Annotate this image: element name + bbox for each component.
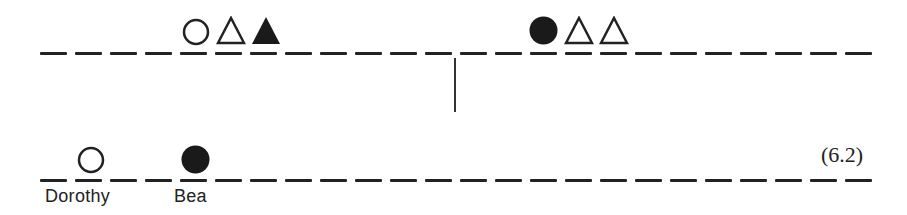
dash-segment: [110, 52, 137, 55]
dash-segment: [845, 179, 872, 182]
dash-segment: [285, 179, 312, 182]
open-circle-icon: [77, 146, 105, 174]
dash-segment: [40, 52, 67, 55]
dash-segment: [75, 52, 102, 55]
dash-segment: [215, 179, 242, 182]
open-circle-icon: [182, 18, 210, 46]
dash-segment: [250, 52, 277, 55]
open-triangle-icon: [564, 16, 594, 45]
bottom-dashed-line: [0, 179, 907, 183]
dash-segment: [75, 179, 102, 182]
dash-segment: [670, 179, 697, 182]
dash-segment: [565, 179, 592, 182]
dash-segment: [145, 52, 172, 55]
dash-segment: [530, 179, 557, 182]
filled-circle-icon: [181, 145, 210, 174]
open-triangle-icon: [216, 16, 246, 45]
dash-segment: [250, 179, 277, 182]
dash-segment: [565, 52, 592, 55]
dash-segment: [145, 179, 172, 182]
open-triangle-icon: [599, 16, 629, 45]
dash-segment: [110, 179, 137, 182]
dash-segment: [600, 52, 627, 55]
dash-segment: [705, 52, 732, 55]
equation-number: (6.2): [821, 142, 863, 168]
filled-circle-icon: [529, 16, 558, 45]
dash-segment: [775, 179, 802, 182]
dash-segment: [670, 52, 697, 55]
dash-segment: [845, 52, 872, 55]
dash-segment: [355, 52, 382, 55]
dash-segment: [705, 179, 732, 182]
dash-segment: [40, 179, 67, 182]
dash-segment: [390, 179, 417, 182]
top-dashed-line: [0, 52, 907, 56]
label-dorothy: Dorothy: [45, 186, 110, 207]
dash-segment: [355, 179, 382, 182]
dash-segment: [775, 52, 802, 55]
dash-segment: [390, 52, 417, 55]
dash-segment: [320, 52, 347, 55]
dash-segment: [740, 52, 767, 55]
dash-segment: [180, 52, 207, 55]
label-bea: Bea: [174, 186, 207, 207]
dash-segment: [460, 52, 487, 55]
dash-segment: [635, 52, 662, 55]
dash-segment: [635, 179, 662, 182]
dash-segment: [810, 179, 837, 182]
dash-segment: [740, 179, 767, 182]
dash-segment: [425, 52, 452, 55]
dash-segment: [180, 179, 207, 182]
dash-segment: [425, 179, 452, 182]
dash-segment: [495, 179, 522, 182]
diagram-canvas: (6.2) Dorothy Bea: [0, 0, 907, 215]
dash-segment: [285, 52, 312, 55]
dash-segment: [495, 52, 522, 55]
dash-segment: [460, 179, 487, 182]
dash-segment: [600, 179, 627, 182]
filled-triangle-icon: [251, 16, 281, 45]
dash-segment: [215, 52, 242, 55]
dash-segment: [530, 52, 557, 55]
dash-segment: [810, 52, 837, 55]
dash-segment: [320, 179, 347, 182]
vertical-divider: [454, 58, 456, 112]
